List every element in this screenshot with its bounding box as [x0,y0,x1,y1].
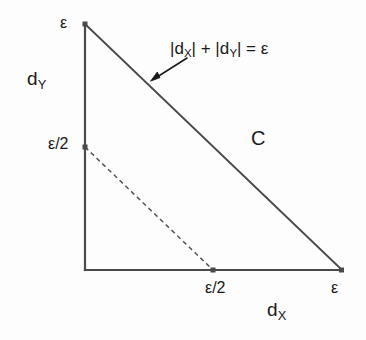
y-tick-epsilon-half [83,145,88,150]
boundary-line-epsilon [85,24,342,270]
figure-container: ε dY ε/2 ε/2 ε dX C |dX| + |dY| = ε [0,0,366,340]
y-axis-tick-label-epsilon: ε [60,15,67,31]
y-axis-title-base: d [27,68,38,89]
boundary-line-epsilon-half-dashed [85,147,213,270]
x-axis-title-subscript: X [278,308,287,323]
boundary-equation-label: |dX| + |dY| = ε [170,40,268,57]
x-axis-tick-label-epsilon-half: ε/2 [205,280,225,296]
boundary-equation-sub2: Y [229,47,237,59]
region-label-c: C [251,128,265,148]
boundary-equation-sub1: X [184,47,192,59]
y-tick-epsilon [83,22,88,27]
x-tick-epsilon-half [211,268,216,273]
boundary-equation-part1: |d [170,39,184,58]
boundary-equation-part3: | = ε [237,39,268,58]
x-tick-epsilon [339,268,344,273]
y-axis-tick-label-epsilon-half: ε/2 [48,136,68,152]
y-axis-title: dY [27,69,46,88]
x-axis-tick-label-epsilon: ε [331,280,338,296]
annotation-arrow-icon [151,58,188,81]
x-axis-title-base: d [267,299,278,320]
x-axis-title: dX [267,300,286,319]
y-axis-title-subscript: Y [38,77,47,92]
boundary-equation-part2: | + |d [192,39,230,58]
